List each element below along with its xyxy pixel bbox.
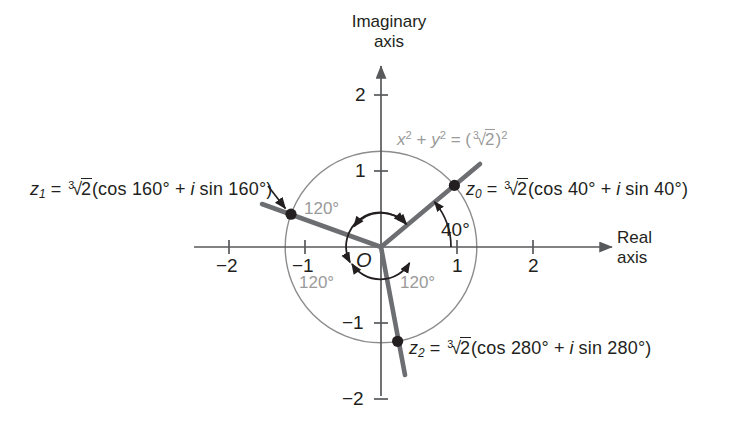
imaginary-axis-label: Imaginary axis: [334, 12, 444, 52]
circle-eq-rhs: (3√2)2: [465, 130, 507, 149]
x-tick-label-2: 2: [528, 255, 539, 277]
x-tick-label-1: 1: [452, 255, 463, 277]
z2-subscript: 2: [418, 346, 425, 360]
z1-radical-symbol: √: [72, 179, 82, 199]
x-tick-label--2: −2: [216, 255, 238, 277]
z0-radical: 3√2: [502, 178, 528, 200]
root-label-z1: z1 = 3√2(cos 160° + i sin 160°): [30, 178, 272, 201]
ray-z2: [381, 247, 405, 375]
circle-eq-x-exp: 2: [406, 129, 412, 141]
z0-symbol: z: [466, 179, 475, 199]
real-axis-label: Real axis: [617, 228, 677, 268]
circle-eq-equals: =: [451, 130, 461, 149]
circle-eq-y-exp: 2: [440, 129, 446, 141]
imaginary-axis-label-line2: axis: [334, 32, 444, 52]
circle-eq-plus: +: [416, 130, 426, 149]
z1-sin: sin 160°: [199, 179, 266, 199]
z0-plus: +: [601, 179, 612, 199]
z0-cos: cos 40°: [534, 179, 596, 199]
y-tick-label-1: 1: [355, 160, 366, 182]
y-tick-label--2: −2: [342, 388, 364, 410]
real-axis-label-line1: Real: [617, 228, 677, 248]
z2-cos: cos 280°: [477, 338, 549, 358]
z2-imaginary-unit: i: [569, 338, 573, 358]
point-z0: [449, 180, 460, 191]
z1-radicand: 2: [81, 178, 92, 200]
z0-radical-symbol: √: [508, 179, 518, 199]
z1-imaginary-unit: i: [190, 179, 194, 199]
real-axis-label-line2: axis: [617, 248, 677, 268]
imaginary-axis-label-line1: Imaginary: [334, 12, 444, 32]
z1-equals: =: [51, 179, 62, 199]
origin-label: O: [356, 249, 372, 273]
point-z1: [285, 209, 296, 220]
angle-label-120-lower-right: 120°: [400, 273, 435, 293]
circle-radical-symbol: √: [477, 130, 486, 149]
z0-equals: =: [487, 179, 498, 199]
z1-radical: 3√2: [66, 178, 92, 200]
circle-eq-rhs-exp: 2: [501, 129, 507, 141]
circle-eq-y: y: [431, 130, 440, 149]
z0-radicand: 2: [517, 178, 528, 200]
z1-symbol: z: [30, 179, 39, 199]
circle-equation: x2 + y2 = (3√2)2: [397, 129, 507, 150]
y-tick-label-2: 2: [355, 84, 366, 106]
z0-subscript: 0: [475, 187, 482, 201]
root-label-z0: z0 = 3√2(cos 40° + i sin 40°): [466, 178, 688, 201]
circle-eq-x: x: [397, 130, 406, 149]
z1-plus: +: [175, 179, 186, 199]
z1-close-paren: ): [266, 179, 272, 199]
angle-label-40: 40°: [441, 219, 470, 241]
z2-symbol: z: [409, 338, 418, 358]
angle-label-120-upper-left: 120°: [304, 199, 339, 219]
z1-cos: cos 160°: [98, 179, 170, 199]
z2-equals: =: [430, 338, 441, 358]
angle-label-120-lower-left: 120°: [299, 273, 334, 293]
z2-close-paren: ): [645, 338, 651, 358]
z0-close-paren: ): [682, 179, 688, 199]
point-z2: [392, 336, 403, 347]
z2-plus: +: [554, 338, 565, 358]
z0-imaginary-unit: i: [616, 179, 620, 199]
z0-sin: sin 40°: [625, 179, 682, 199]
complex-plane-figure: [0, 0, 750, 436]
z2-sin: sin 280°: [578, 338, 645, 358]
z2-radical-symbol: √: [451, 338, 461, 358]
root-label-z2: z2 = 3√2(cos 280° + i sin 280°): [409, 337, 651, 360]
z2-radical: 3√2: [445, 337, 471, 359]
z1-subscript: 1: [39, 187, 46, 201]
circle-radicand: 2: [485, 129, 495, 150]
z2-radicand: 2: [460, 337, 471, 359]
y-tick-label--1: −1: [342, 312, 364, 334]
